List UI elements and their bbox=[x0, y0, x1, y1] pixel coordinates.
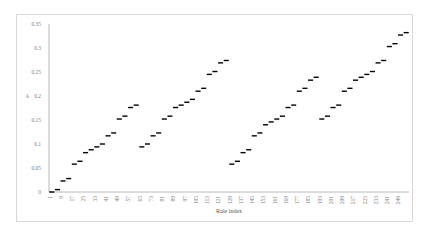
x-tick-label: 137 bbox=[238, 196, 244, 205]
x-tick-label: 193 bbox=[317, 196, 323, 205]
data-series bbox=[49, 33, 408, 192]
x-tick-label: 177 bbox=[294, 196, 300, 205]
y-tick-label: 0.3 bbox=[34, 45, 41, 51]
x-tick-label: 233 bbox=[373, 196, 379, 205]
y-tick-label: 0.1 bbox=[34, 141, 41, 147]
chart-plot: 00.050.10.150.20.250.30.35 1917253341495… bbox=[0, 0, 424, 234]
x-tick-label: 1 bbox=[47, 196, 53, 199]
x-tick-label: 105 bbox=[193, 196, 199, 205]
x-tick-label: 97 bbox=[182, 196, 188, 202]
x-tick-label: 41 bbox=[103, 196, 109, 202]
x-axis-title: Rule index bbox=[216, 208, 242, 214]
y-axis: 00.050.10.150.20.250.30.35 bbox=[31, 21, 49, 195]
x-tick-label: 145 bbox=[249, 196, 255, 205]
x-tick-label: 209 bbox=[339, 196, 345, 205]
x-tick-label: 49 bbox=[114, 196, 120, 202]
x-tick-label: 129 bbox=[227, 196, 233, 205]
x-axis: 1917253341495765738189971051131211291371… bbox=[47, 192, 409, 204]
x-tick-label: 57 bbox=[125, 196, 131, 202]
x-tick-label: 121 bbox=[215, 196, 221, 205]
y-tick-label: 0.25 bbox=[31, 69, 41, 75]
y-tick-label: 0.15 bbox=[31, 117, 41, 123]
y-tick-label: 0.05 bbox=[31, 165, 41, 171]
y-tick-label: 0.35 bbox=[31, 21, 41, 27]
y-axis-title: λ bbox=[26, 93, 29, 99]
x-tick-label: 169 bbox=[283, 196, 289, 205]
x-tick-label: 25 bbox=[80, 196, 86, 202]
x-tick-label: 241 bbox=[384, 196, 390, 205]
x-tick-label: 161 bbox=[272, 196, 278, 205]
x-tick-label: 113 bbox=[204, 196, 210, 204]
x-tick-label: 73 bbox=[148, 196, 154, 202]
x-tick-label: 81 bbox=[159, 196, 165, 202]
x-tick-label: 33 bbox=[92, 196, 98, 202]
x-tick-label: 249 bbox=[395, 196, 401, 205]
x-tick-label: 225 bbox=[362, 196, 368, 205]
x-tick-label: 17 bbox=[69, 196, 75, 202]
x-tick-label: 65 bbox=[137, 196, 143, 202]
x-tick-label: 89 bbox=[170, 196, 176, 202]
x-tick-label: 201 bbox=[328, 196, 334, 205]
y-tick-label: 0.2 bbox=[34, 93, 41, 99]
x-tick-label: 153 bbox=[260, 196, 266, 205]
x-tick-label: 185 bbox=[305, 196, 311, 205]
y-tick-label: 0 bbox=[38, 189, 41, 195]
x-tick-label: 9 bbox=[58, 196, 64, 199]
x-tick-label: 217 bbox=[350, 196, 356, 205]
